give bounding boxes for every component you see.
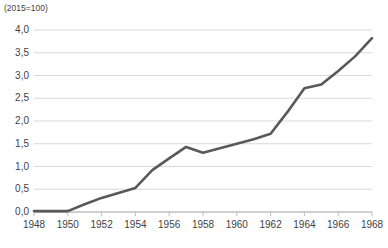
y-axis-tick-label: 3,0 <box>1 71 29 81</box>
x-axis-tick-label: 1968 <box>352 220 388 230</box>
y-axis-tick-label: 4,0 <box>1 25 29 35</box>
y-axis-tick-label: 1,5 <box>1 139 29 149</box>
data-series-line <box>34 38 372 211</box>
y-axis-tick-label: 1,0 <box>1 162 29 172</box>
y-axis-tick-label: 2,5 <box>1 93 29 103</box>
y-axis-tick-label: 2,0 <box>1 116 29 126</box>
y-axis-tick-label: 0,0 <box>1 207 29 217</box>
gridlines <box>34 30 372 212</box>
y-axis-tick-label: 0,5 <box>1 184 29 194</box>
x-axis-ticks <box>34 212 372 216</box>
y-axis-tick-label: 3,5 <box>1 48 29 58</box>
